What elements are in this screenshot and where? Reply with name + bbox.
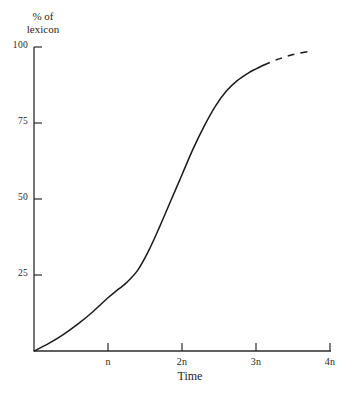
x-axis-title: Time: [160, 370, 220, 384]
y-axis-title-line-1: % of: [10, 10, 76, 23]
curve-projected: [263, 52, 307, 66]
lexicon-time-chart: % of lexicon 100 75 50 25 n 2n 3n 4n Tim…: [0, 0, 354, 393]
plot-area: [0, 0, 354, 393]
y-tick-label-75: 75: [6, 116, 28, 127]
y-tick-label-100: 100: [6, 40, 28, 51]
x-tick-label-2n: 2n: [170, 356, 194, 368]
x-tick-label-3n: 3n: [244, 356, 268, 368]
y-axis-title-line-2: lexicon: [10, 23, 76, 36]
x-tick-label-n: n: [96, 356, 120, 368]
y-tick-label-25: 25: [6, 268, 28, 279]
curve-observed: [34, 65, 263, 351]
y-tick-label-50: 50: [6, 192, 28, 203]
y-axis-title: % of lexicon: [10, 10, 76, 35]
x-tick-label-4n: 4n: [318, 356, 342, 368]
